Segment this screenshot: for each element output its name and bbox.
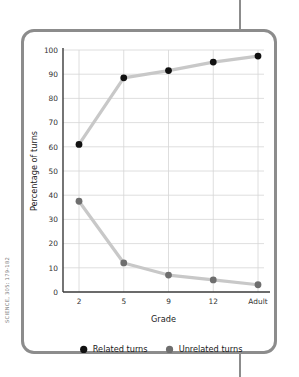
- y-axis-tick-label: 70: [49, 118, 59, 127]
- data-point-related-turns: [255, 53, 262, 60]
- y-axis-tick-label: 50: [49, 167, 59, 176]
- y-axis-tick-label: 10: [49, 264, 59, 273]
- x-axis-tick-label: Adult: [248, 297, 267, 306]
- legend-group: Related turnsUnrelated turns: [80, 344, 242, 354]
- figure-root: SCIENCE, 305: 179-182 010203040506070809…: [0, 0, 299, 377]
- x-axis-tick-label: 12: [209, 297, 218, 306]
- chart-area: 010203040506070809010025912AdultGradePer…: [21, 29, 277, 354]
- data-point-related-turns: [120, 74, 127, 81]
- data-point-unrelated-turns: [210, 277, 217, 284]
- data-point-unrelated-turns: [255, 281, 262, 288]
- gridlines-group: [63, 50, 264, 292]
- y-axis-tick-label: 30: [49, 215, 59, 224]
- y-axis-tick-label: 20: [49, 239, 59, 248]
- legend-label-unrelated-turns: Unrelated turns: [179, 344, 243, 354]
- y-axis-tick-label: 80: [49, 94, 59, 103]
- data-point-unrelated-turns: [76, 198, 83, 205]
- data-point-related-turns: [210, 59, 217, 66]
- x-axis-tick-label: 9: [166, 297, 171, 306]
- data-point-related-turns: [165, 67, 172, 74]
- x-axis-tick-label: 5: [121, 297, 126, 306]
- legend-label-related-turns: Related turns: [93, 344, 148, 354]
- axis-group: [63, 48, 270, 292]
- frame-connector-top: [239, 0, 241, 30]
- journal-citation: SCIENCE, 305: 179-182: [4, 263, 10, 323]
- x-axis-tick-label: 2: [77, 297, 82, 306]
- x-axis-title: Grade: [151, 314, 176, 324]
- y-axis-title: Percentage of turns: [29, 131, 39, 211]
- frame-connector-bottom: [239, 352, 241, 377]
- legend-marker-related-turns[interactable]: [80, 346, 87, 353]
- y-axis-tick-label: 40: [49, 191, 59, 200]
- y-axis-tick-label: 100: [44, 46, 58, 55]
- legend-marker-unrelated-turns[interactable]: [166, 346, 173, 353]
- y-axis-tick-label: 60: [49, 143, 59, 152]
- y-axis-tick-label: 0: [53, 288, 58, 297]
- data-point-unrelated-turns: [120, 260, 127, 267]
- line-chart: 010203040506070809010025912AdultGradePer…: [21, 29, 277, 354]
- data-point-related-turns: [76, 141, 83, 148]
- data-point-unrelated-turns: [165, 272, 172, 279]
- y-axis-tick-label: 90: [49, 70, 59, 79]
